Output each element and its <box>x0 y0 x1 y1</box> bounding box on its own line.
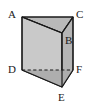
prism-figure: A B C D E F <box>0 0 95 110</box>
vertex-label-a: A <box>8 9 16 20</box>
vertex-label-e: E <box>58 92 65 103</box>
vertex-label-b: B <box>65 35 72 46</box>
vertex-label-c: C <box>76 9 83 20</box>
face-bottom <box>22 70 73 87</box>
vertex-label-f: F <box>76 64 82 75</box>
vertex-label-d: D <box>8 64 16 75</box>
